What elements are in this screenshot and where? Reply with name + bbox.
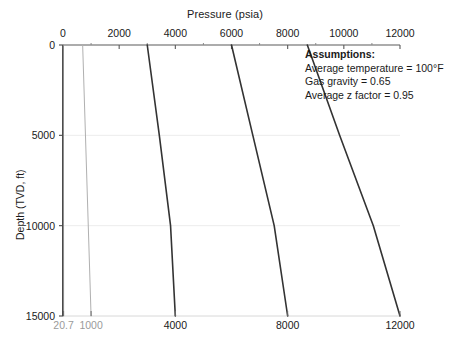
- data-series-line: [147, 45, 175, 316]
- assumptions-line: Average z factor = 0.95: [305, 89, 444, 103]
- x-axis-bottom-tick-label: 4000: [164, 319, 187, 331]
- assumptions-line: Gas gravity = 0.65: [305, 75, 444, 89]
- y-axis-tick-label: 5000: [0, 129, 55, 141]
- data-series-line: [232, 45, 288, 316]
- x-axis-bottom-tick-label: 12000: [385, 319, 414, 331]
- x-axis-bottom-tick-label: 8000: [276, 319, 299, 331]
- x-axis-top-tick-label: 10000: [329, 27, 358, 39]
- assumptions-annotation: Assumptions: Average temperature = 100°F…: [305, 48, 444, 102]
- x-axis-top-tick-label: 0: [60, 27, 66, 39]
- y-axis-title: Depth (TVD, ft): [14, 169, 26, 240]
- x-axis-top-tick-label: 12000: [385, 27, 414, 39]
- x-axis-top-tick-label: 8000: [276, 27, 299, 39]
- y-axis-tick-label: 0: [0, 39, 55, 51]
- y-axis-tick-label: 10000: [0, 220, 55, 232]
- x-axis-title: Pressure (psia): [0, 8, 450, 20]
- x-axis-top-tick-label: 4000: [164, 27, 187, 39]
- assumptions-line: Average temperature = 100°F: [305, 62, 444, 76]
- y-axis-tick-label: 15000: [0, 310, 55, 322]
- x-axis-top-tick-label: 2000: [107, 27, 130, 39]
- x-axis-bottom-tick-label: 20.7: [53, 319, 73, 331]
- gas-gradient-chart: Pressure (psia) 020004000600080001000012…: [0, 0, 450, 344]
- data-series-line: [83, 45, 91, 316]
- x-axis-bottom-tick-label: 1000: [79, 319, 102, 331]
- x-axis-top-tick-label: 6000: [220, 27, 243, 39]
- assumptions-title: Assumptions:: [305, 48, 444, 62]
